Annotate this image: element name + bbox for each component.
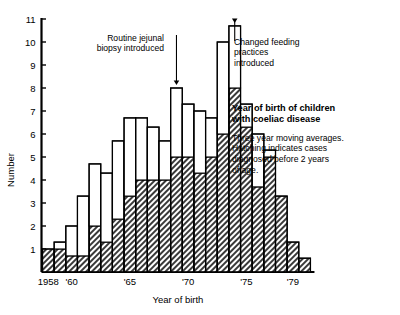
bar-hatched-segment [206,157,218,272]
x-tick-label: '70 [182,276,194,287]
y-tick-label: 8 [30,83,35,94]
y-tick-label: 3 [30,198,35,209]
bar-open-segment [124,118,136,196]
bar-open-segment [194,111,206,173]
legend-title: Year of birth of children with coeliac d… [232,103,382,126]
y-tick-label: 4 [30,175,35,186]
bar-open-segment [217,42,229,134]
bar-hatched-segment [54,249,66,272]
annotation-arrow [174,35,180,85]
legend-body: Three year moving averages. Hatching ind… [232,133,382,175]
bar-open-segment [66,226,78,256]
coeliac-disease-birth-year-chart: 1234567891011 1958'60'65'70'75'79 Number… [0,0,400,315]
bar-hatched-segment [287,242,299,272]
bar-open-segment [89,164,101,226]
bar-hatched-segment [276,196,288,272]
bar-hatched-segment [66,256,78,272]
bar-hatched-segment [136,180,148,272]
bar-open-segment [159,141,171,180]
bar-open-segment [77,196,89,256]
y-tick-label: 2 [30,221,35,232]
y-tick-label: 11 [26,14,36,25]
y-tick-label: 6 [30,129,35,140]
x-axis-title: Year of birth [153,294,204,305]
bar-open-segment [147,127,159,180]
bar-hatched-segment [171,157,183,272]
bar-hatched-segment [112,219,124,272]
bar-hatched-segment [182,157,194,272]
x-tick-label: '79 [287,276,299,287]
y-tick-label: 7 [30,106,35,117]
bar-open-segment [182,104,194,157]
y-tick-label: 9 [30,60,35,71]
bar-hatched-segment [124,196,136,272]
annotation-changed-feeding: Changed feeding practices introduced [234,37,324,68]
bar-hatched-segment [217,134,229,272]
bar-hatched-segment [101,242,113,272]
annotation-jejunal-biopsy: Routine jejunal biopsy introduced [82,33,164,54]
bar-hatched-segment [43,249,55,272]
bar-hatched-segment [299,258,311,272]
bar-hatched-segment [252,187,264,272]
x-axis: 1958'60'65'70'75'79 [38,272,315,287]
bar-hatched-segment [194,173,206,272]
bar-hatched-segment [147,180,159,272]
y-tick-label: 5 [30,152,35,163]
bar-open-segment [136,118,148,180]
x-tick-label: '65 [124,276,136,287]
x-tick-label: '60 [65,276,77,287]
y-tick-label: 1 [30,244,35,255]
y-axis-title: Number [5,153,16,187]
bar-hatched-segment [89,226,101,272]
bar-open-segment [101,173,113,242]
y-tick-label: 10 [25,37,36,48]
bar-open-segment [112,141,124,219]
bar-hatched-segment [159,180,171,272]
bar-open-segment [54,242,66,249]
y-axis: 1234567891011 [25,14,46,273]
x-tick-label: '75 [240,276,252,287]
x-tick-label: 1958 [38,276,59,287]
bar-hatched-segment [77,256,89,272]
bar-open-segment [171,88,183,157]
chart-legend: Year of birth of children with coeliac d… [232,103,382,175]
bar-open-segment [206,118,218,157]
